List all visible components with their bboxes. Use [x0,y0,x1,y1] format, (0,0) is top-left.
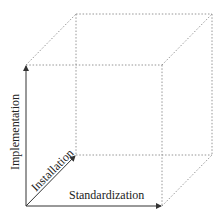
cube-diagram: Implementation Standardization Installat… [0,0,224,218]
implementation-label: Implementation [8,94,22,170]
installation-label: Installation [28,146,76,194]
standardization-label: Standardization [69,188,144,202]
